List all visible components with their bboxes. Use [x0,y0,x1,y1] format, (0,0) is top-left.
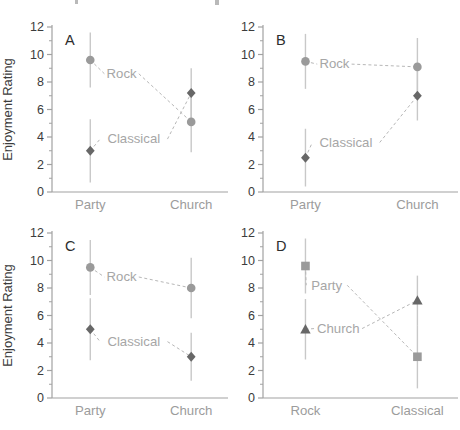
svg-text:Classical: Classical [391,403,444,418]
svg-text:Classical: Classical [107,131,160,146]
svg-text:2: 2 [248,158,255,172]
svg-text:Rock: Rock [319,56,349,71]
svg-text:6: 6 [37,103,44,117]
svg-text:4: 4 [37,130,44,144]
svg-text:6: 6 [37,309,44,323]
svg-text:8: 8 [248,75,255,89]
svg-text:B: B [276,32,286,48]
svg-text:D: D [276,238,286,254]
svg-text:8: 8 [37,281,44,295]
svg-text:8: 8 [37,75,44,89]
svg-text:6: 6 [248,309,255,323]
svg-text:12: 12 [241,20,255,34]
svg-text:2: 2 [37,364,44,378]
svg-text:Enjoyment Rating: Enjoyment Rating [0,58,15,161]
svg-text:Church: Church [317,321,360,336]
svg-text:Church: Church [396,197,439,212]
svg-text:12: 12 [30,20,44,34]
svg-text:C: C [65,238,75,254]
svg-text:2: 2 [37,158,44,172]
svg-text:12: 12 [241,226,255,240]
svg-text:Classical: Classical [107,334,160,349]
four-panel-figure: 024681012AEnjoyment RatingPartyChurchRoc… [0,0,460,430]
svg-text:0: 0 [248,391,255,405]
svg-text:Church: Church [170,197,213,212]
svg-text:Classical: Classical [320,135,373,150]
svg-text:Rock: Rock [107,66,137,81]
svg-text:0: 0 [248,185,255,199]
panel-a-chart: 024681012AEnjoyment RatingPartyChurchRoc… [0,0,230,215]
svg-text:8: 8 [248,281,255,295]
svg-text:4: 4 [248,130,255,144]
panel-grid: 024681012AEnjoyment RatingPartyChurchRoc… [0,0,460,430]
svg-text:Party: Party [311,278,342,293]
svg-text:6: 6 [248,103,255,117]
svg-text:10: 10 [30,48,44,62]
svg-text:10: 10 [30,254,44,268]
svg-text:Party: Party [75,197,106,212]
svg-text:0: 0 [37,185,44,199]
svg-text:Enjoyment Rating: Enjoyment Rating [0,264,15,367]
svg-text:2: 2 [248,364,255,378]
svg-text:Rock: Rock [107,269,137,284]
svg-text:Party: Party [75,403,106,418]
svg-text:10: 10 [241,48,255,62]
panel-d-chart: 024681012DRockClassicalPartyChurch [230,215,460,430]
svg-text:Church: Church [170,403,213,418]
svg-text:A: A [65,32,75,48]
svg-text:4: 4 [248,336,255,350]
panel-b-chart: 024681012BPartyChurchRockClassical [230,0,460,215]
svg-text:0: 0 [37,391,44,405]
svg-text:10: 10 [241,254,255,268]
svg-text:4: 4 [37,336,44,350]
svg-text:Rock: Rock [290,403,320,418]
svg-text:12: 12 [30,226,44,240]
panel-c-chart: 024681012CEnjoyment RatingPartyChurchRoc… [0,215,230,430]
svg-text:Party: Party [290,197,321,212]
